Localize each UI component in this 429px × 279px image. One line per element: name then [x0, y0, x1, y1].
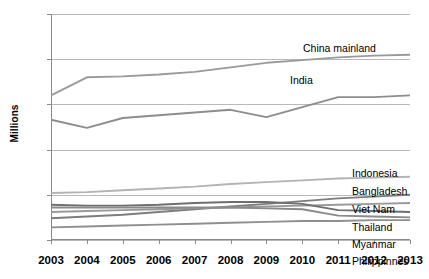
x-tick-mark: [51, 240, 52, 244]
x-tick-label: 2007: [175, 254, 215, 266]
series-label-indonesia: Indonesia: [352, 167, 398, 179]
x-tick-mark: [410, 240, 411, 244]
series-label-china-mainland: China mainland: [303, 42, 376, 54]
series-line-india: [51, 95, 410, 128]
x-tick-mark: [123, 240, 124, 244]
x-tick-mark: [231, 240, 232, 244]
line-chart: Millions 050100150200250 200320042005200…: [0, 0, 429, 279]
series-label-philippinnes: Philippinnes: [352, 255, 409, 267]
x-tick-label: 2003: [31, 254, 71, 266]
series-label-viet-nam: Viet Nam: [352, 203, 395, 215]
x-tick-mark: [195, 240, 196, 244]
x-tick-mark: [302, 240, 303, 244]
x-tick-label: 2005: [103, 254, 143, 266]
series-label-bangladesh: Bangladesh: [352, 185, 407, 197]
x-tick-label: 2008: [211, 254, 251, 266]
x-tick-mark: [266, 240, 267, 244]
x-tick-mark: [87, 240, 88, 244]
x-tick-label: 2009: [246, 254, 286, 266]
x-tick-mark: [159, 240, 160, 244]
series-label-thailand: Thailand: [352, 221, 392, 233]
x-tick-label: 2006: [139, 254, 179, 266]
series-line-china-mainland: [51, 55, 410, 96]
y-axis-title: Millions: [9, 89, 20, 159]
series-label-myanmar: Myanmar: [352, 238, 396, 250]
x-tick-label: 2010: [282, 254, 322, 266]
x-tick-mark: [338, 240, 339, 244]
x-tick-label: 2004: [67, 254, 107, 266]
series-label-india: India: [290, 74, 313, 86]
